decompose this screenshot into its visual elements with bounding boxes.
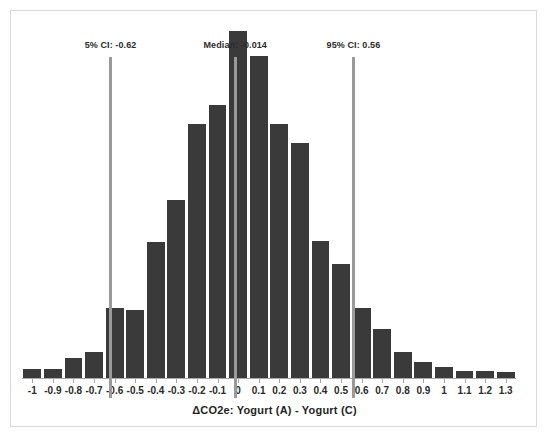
x-axis-tick xyxy=(156,378,157,383)
histogram-bar xyxy=(65,358,83,378)
histogram-bar xyxy=(312,241,330,378)
x-axis-tick xyxy=(485,378,486,383)
x-axis-title: ΔCO2e: Yogurt (A) - Yogurt (C) xyxy=(0,404,549,416)
plot-area xyxy=(22,20,516,378)
x-axis-tick xyxy=(259,378,260,383)
x-axis-ticks xyxy=(22,378,516,384)
histogram-bar xyxy=(85,352,103,378)
x-axis-tick-label: -0.8 xyxy=(65,385,82,396)
x-axis-tick-label: 1.3 xyxy=(499,385,513,396)
x-axis-tick xyxy=(506,378,507,383)
histogram-bar xyxy=(476,371,494,378)
histogram-bar xyxy=(23,369,41,378)
histogram-bar xyxy=(270,124,288,378)
x-axis-tick-label: -0.3 xyxy=(168,385,185,396)
x-axis-tick xyxy=(135,378,136,383)
x-axis-tick-label: -0.7 xyxy=(85,385,102,396)
x-axis-tick xyxy=(465,378,466,383)
histogram-bar xyxy=(353,308,371,378)
x-axis-tick-label: 0.6 xyxy=(355,385,369,396)
x-axis-tick xyxy=(382,378,383,383)
x-axis-tick-label: 0.3 xyxy=(293,385,307,396)
lower-ci-label: 5% CI: -0.62 xyxy=(85,40,137,50)
histogram-bar xyxy=(291,143,309,378)
x-axis-tick-label: -0.5 xyxy=(127,385,144,396)
histogram-bar xyxy=(126,310,144,378)
x-axis-tick-label: 0.7 xyxy=(375,385,389,396)
x-axis-tick-label: 0.9 xyxy=(416,385,430,396)
x-axis-tick xyxy=(73,378,74,383)
x-axis-tick-label: -1 xyxy=(28,385,37,396)
x-axis-tick-label: 0.8 xyxy=(396,385,410,396)
x-axis-tick-label: -0.9 xyxy=(44,385,61,396)
bars-layer xyxy=(22,20,516,378)
x-axis-tick xyxy=(197,378,198,383)
x-axis-tick-label: 0.1 xyxy=(252,385,266,396)
x-axis-tick xyxy=(279,378,280,383)
histogram-bar xyxy=(147,242,165,378)
x-axis-tick xyxy=(444,378,445,383)
x-axis-tick-label: -0.1 xyxy=(209,385,226,396)
median-label: Median: -0.014 xyxy=(204,40,267,50)
x-axis-tick-label: -0.4 xyxy=(147,385,164,396)
median-marker-line xyxy=(234,57,237,398)
upper-ci-label: 95% CI: 0.56 xyxy=(327,40,381,50)
x-axis-tick xyxy=(53,378,54,383)
x-axis-tick-label: 0.2 xyxy=(272,385,286,396)
x-axis-tick-label: 1 xyxy=(441,385,447,396)
x-axis-tick xyxy=(94,378,95,383)
histogram-bar xyxy=(209,105,227,378)
x-axis-tick-label: 0.5 xyxy=(334,385,348,396)
histogram-bar xyxy=(332,264,350,378)
x-axis-tick xyxy=(362,378,363,383)
x-axis-tick-label: 1.1 xyxy=(458,385,472,396)
histogram-bar xyxy=(167,200,185,378)
histogram-bar xyxy=(414,362,432,378)
x-axis-tick-label: 1.2 xyxy=(478,385,492,396)
x-axis-tick xyxy=(115,378,116,383)
x-axis-tick xyxy=(341,378,342,383)
x-axis-tick xyxy=(238,378,239,383)
x-axis-tick xyxy=(320,378,321,383)
x-axis-tick-label: 0.4 xyxy=(314,385,328,396)
histogram-bar xyxy=(373,329,391,378)
histogram-bar xyxy=(188,124,206,378)
histogram-bar xyxy=(394,352,412,378)
upper-ci-marker-line xyxy=(352,57,355,398)
x-axis-tick xyxy=(403,378,404,383)
x-axis-tick xyxy=(300,378,301,383)
x-axis-tick xyxy=(32,378,33,383)
x-axis-tick-label: -0.2 xyxy=(188,385,205,396)
x-axis-tick xyxy=(218,378,219,383)
lower-ci-marker-line xyxy=(109,57,112,398)
histogram-chart: -1-0.9-0.8-0.7-0.6-0.5-0.4-0.3-0.2-0.100… xyxy=(0,0,549,436)
x-axis-tick xyxy=(423,378,424,383)
histogram-bar xyxy=(229,31,247,378)
histogram-bar xyxy=(44,369,62,378)
histogram-bar xyxy=(250,56,268,378)
histogram-bar xyxy=(435,367,453,378)
x-axis-tick-labels: -1-0.9-0.8-0.7-0.6-0.5-0.4-0.3-0.2-0.100… xyxy=(22,385,516,401)
x-axis-tick xyxy=(176,378,177,383)
histogram-bar xyxy=(456,371,474,378)
